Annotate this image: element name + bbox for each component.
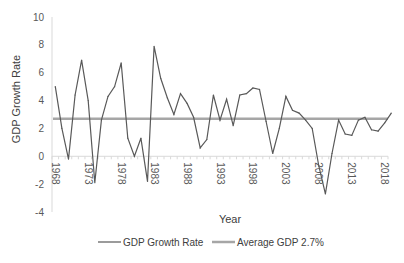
data-point-1969 [61, 128, 62, 129]
data-point-1972 [81, 60, 82, 61]
x-tick-label: 1988 [182, 162, 193, 185]
y-tick-label: 6 [38, 67, 44, 78]
y-tick-label: 4 [38, 95, 44, 106]
x-axis-title: Year [219, 213, 242, 225]
data-point-1997 [246, 93, 247, 94]
data-point-2000 [266, 121, 267, 122]
x-tick-label: 1983 [149, 162, 160, 185]
y-tick-label: -2 [35, 179, 44, 190]
data-point-1976 [107, 96, 108, 97]
data-point-2007 [312, 128, 313, 129]
x-tick-label: 2013 [346, 162, 357, 185]
data-point-1983 [154, 46, 155, 47]
data-point-2018 [384, 122, 385, 123]
data-point-1992 [213, 94, 214, 95]
data-point-2004 [292, 110, 293, 111]
data-point-1995 [233, 125, 234, 126]
data-point-undefined [391, 113, 392, 114]
data-point-1987 [180, 93, 181, 94]
data-point-2009 [325, 193, 326, 194]
x-tick-label: 1993 [215, 162, 226, 185]
y-axis-title: GDP Growth Rate [10, 55, 22, 143]
data-point-1984 [160, 78, 161, 79]
data-point-1991 [206, 139, 207, 140]
data-point-1994 [226, 99, 227, 100]
x-axis-ticks: 1968197319781983198819931998200320082013… [50, 156, 390, 185]
data-point-1975 [101, 119, 102, 120]
legend: GDP Growth Rate Average GDP 2.7% [98, 237, 324, 248]
data-point-2008 [318, 165, 319, 166]
data-point-2001 [272, 153, 273, 154]
y-tick-label: 0 [38, 151, 44, 162]
data-point-2013 [351, 135, 352, 136]
data-point-1999 [259, 89, 260, 90]
y-tick-label: 10 [33, 12, 45, 23]
legend-label-gdp-growth-rate: GDP Growth Rate [123, 237, 204, 248]
data-point-2006 [305, 119, 306, 120]
y-tick-label: 8 [38, 39, 44, 50]
x-tick-label: 1998 [247, 162, 258, 185]
data-point-2002 [279, 128, 280, 129]
data-point-1988 [186, 103, 187, 104]
data-point-1968 [55, 86, 56, 87]
data-point-1978 [121, 62, 122, 63]
data-point-1979 [127, 138, 128, 139]
data-point-1990 [200, 147, 201, 148]
legend-label-average-gdp: Average GDP 2.7% [237, 237, 324, 248]
data-point-1980 [134, 156, 135, 157]
data-point-2016 [371, 129, 372, 130]
data-point-1996 [239, 94, 240, 95]
data-point-2014 [358, 119, 359, 120]
data-point-2017 [378, 131, 379, 132]
y-tick-label: -4 [35, 207, 44, 218]
data-point-2010 [331, 153, 332, 154]
x-tick-label: 1968 [50, 162, 61, 185]
data-point-1981 [140, 138, 141, 139]
y-axis-ticks: -4-20246810 [33, 12, 45, 218]
data-point-1973 [88, 100, 89, 101]
data-point-1993 [219, 119, 220, 120]
data-point-1971 [74, 94, 75, 95]
x-tick-label: 1978 [116, 162, 127, 185]
x-tick-label: 2003 [280, 162, 291, 185]
data-point-1977 [114, 86, 115, 87]
data-point-2005 [298, 113, 299, 114]
data-point-2015 [364, 117, 365, 118]
data-point-2012 [345, 133, 346, 134]
y-tick-label: 2 [38, 123, 44, 134]
data-point-1989 [193, 117, 194, 118]
data-point-1986 [173, 114, 174, 115]
chart: -4-20246810 1968197319781983198819931998… [0, 0, 404, 263]
data-point-2003 [285, 96, 286, 97]
data-point-2011 [338, 119, 339, 120]
data-point-1982 [147, 181, 148, 182]
data-point-1970 [68, 158, 69, 159]
x-tick-label: 1973 [83, 162, 94, 185]
data-point-1985 [167, 97, 168, 98]
data-point-1974 [94, 182, 95, 183]
x-tick-label: 2018 [379, 162, 390, 185]
data-point-1998 [252, 87, 253, 88]
